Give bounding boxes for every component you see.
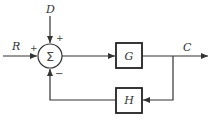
disturbance-input: D +: [45, 3, 64, 43]
reference-input: R +: [3, 40, 38, 56]
feedback-block: H: [116, 88, 142, 113]
feedback-sign: −: [55, 68, 63, 79]
feedback-branch-arrow: [143, 56, 173, 100]
output: C: [142, 41, 208, 56]
block-diagram: R + D + Σ − G C H: [0, 0, 211, 118]
reference-sign: +: [30, 43, 38, 53]
summing-junction: Σ −: [38, 44, 63, 79]
disturbance-sign: +: [56, 33, 64, 43]
sigma-icon: Σ: [46, 49, 54, 64]
output-label: C: [183, 41, 192, 54]
forward-block: G: [116, 43, 142, 68]
feedback-block-label: H: [123, 94, 134, 107]
forward-block-label: G: [125, 50, 134, 63]
disturbance-label: D: [45, 3, 55, 16]
reference-label: R: [11, 40, 20, 53]
